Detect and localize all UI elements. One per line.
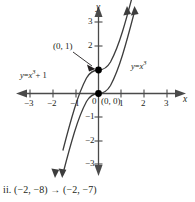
point-label-0-0: (0, 0): [101, 97, 121, 106]
y-tick-label-neg3: −3: [85, 159, 95, 168]
curve-parent-bottom-arrow: [59, 169, 67, 179]
x-tick-label-neg2: −2: [47, 99, 57, 108]
curve-shifted-bottom-arrow: [51, 169, 59, 179]
x-tick-label-3: 3: [164, 99, 169, 108]
figure-caption: ii. (−2, −8) → (−2, −7): [3, 184, 97, 195]
x-axis-arrow-left: [16, 90, 27, 98]
curve-label-parent: y=x3: [131, 60, 147, 70]
y-tick-label-neg1: −1: [85, 112, 95, 121]
x-axis-label: x: [183, 95, 187, 105]
y-tick-label-neg2: −2: [85, 136, 95, 145]
x-tick-label-neg1: −1: [70, 99, 80, 108]
origin-label: 0: [92, 97, 97, 106]
point-0-1: [95, 67, 102, 74]
graph-figure: y x −3 −2 −1 1 2 3 3 2 −1 −2 −3 0 (0, 1)…: [0, 0, 195, 202]
annotation-arrow-to-intercept: [73, 52, 96, 72]
x-tick-label-neg3: −3: [24, 99, 34, 108]
y-axis-label: y: [96, 3, 100, 13]
curve-label-shifted-tail: + 1: [36, 70, 47, 80]
coordinate-plane: [0, 0, 195, 180]
curve-parent-top-arrow: [131, 6, 139, 16]
y-axis-arrow-down: [95, 165, 103, 176]
y-tick-label-2: 2: [88, 41, 93, 50]
curve-label-parent-exponent: 3: [143, 59, 146, 66]
curve-label-shifted: y=x3+ 1: [20, 69, 47, 79]
y-tick-label-3: 3: [88, 17, 93, 26]
point-label-0-1: (0, 1): [53, 42, 73, 51]
x-tick-label-2: 2: [141, 99, 146, 108]
